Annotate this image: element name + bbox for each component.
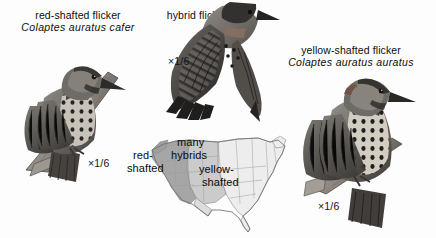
map-label-hybrid-line1: many [177,136,204,148]
scale-label-red-shafted: ×1/6 [88,157,110,169]
range-map: many hybrids red- shafted yellow- shafte… [146,128,292,234]
map-label-hybrid-zone-line2: hybrids [171,150,207,162]
scientific-name-red-shafted: Colaptes auratus cafer [12,21,144,33]
scientific-name-yellow-shafted: Colaptes auratus auratus [272,56,430,68]
bird-image-red-shafted [14,44,134,184]
bird-image-yellow-shafted [296,72,422,230]
map-label-red-shafted-line1: red- [133,150,153,162]
scale-label-hybrid: ×1/6 [168,55,190,67]
map-label-red-shafted-line2: shafted [127,163,164,175]
flicker-subspecies-figure: red-shafted flicker Colaptes auratus caf… [0,0,436,238]
common-name-red-shafted: red-shafted flicker [12,9,144,21]
scale-label-yellow-shafted: ×1/6 [318,200,340,212]
caption-red-shafted: red-shafted flicker Colaptes auratus caf… [12,9,144,34]
map-label-yellow-shafted-line2: shafted [202,177,239,189]
common-name-yellow-shafted: yellow-shafted flicker [272,44,430,56]
map-label-hybrid-zone: many [177,137,204,149]
map-label-yellow-shafted-line1: yellow- [199,164,234,176]
caption-yellow-shafted: yellow-shafted flicker Colaptes auratus … [272,44,430,69]
